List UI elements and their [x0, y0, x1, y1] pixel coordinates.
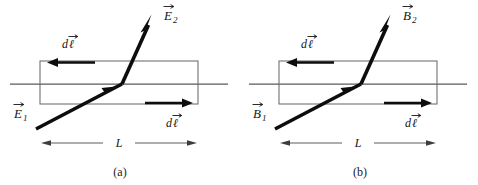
- dl-bottom-differential-symbol: d: [405, 116, 412, 130]
- panel-a-caption: (a): [113, 165, 126, 179]
- panel-a-incident-field-label: E 1: [13, 103, 28, 123]
- dl-bottom-differential-symbol: d: [166, 116, 173, 130]
- panel-b-geometry: [249, 15, 467, 146]
- incident-field-symbol: B: [253, 106, 261, 121]
- panel-b-length-label: L: [354, 136, 362, 150]
- transmitted-field-subscript: 2: [412, 15, 417, 25]
- dl-top-script-ell: ℓ: [308, 37, 313, 51]
- panel-b-caption: (b): [353, 165, 367, 179]
- transmitted-field-subscript: 2: [173, 15, 178, 25]
- panel-b-dl-bottom-label: d ℓ: [405, 114, 421, 130]
- dl-bottom-script-ell: ℓ: [412, 116, 417, 130]
- dl-top-script-ell: ℓ: [69, 37, 74, 51]
- panel-a-length-label: L: [115, 136, 123, 150]
- panel-a-dl-top-label: d ℓ: [62, 35, 78, 51]
- figure-container: E 1 E 2 d ℓ d ℓ L: [0, 0, 478, 185]
- panel-b-transmitted-field-label: B 2: [403, 5, 418, 25]
- incident-field-subscript: 1: [262, 113, 267, 123]
- panel-b: B 1 B 2 d ℓ d ℓ L: [249, 5, 467, 179]
- dl-top-differential-symbol: d: [62, 37, 69, 51]
- panel-b-dl-top-label: d ℓ: [301, 35, 317, 51]
- panel-a-dl-bottom-label: d ℓ: [166, 114, 182, 130]
- panel-a-transmitted-field-label: E 2: [163, 5, 178, 25]
- panel-a: E 1 E 2 d ℓ d ℓ L: [10, 5, 228, 179]
- dl-top-differential-symbol: d: [301, 37, 308, 51]
- physics-diagram-svg: E 1 E 2 d ℓ d ℓ L: [0, 0, 478, 185]
- transmitted-field-symbol: E: [163, 8, 172, 23]
- panel-b-incident-field-label: B 1: [253, 103, 267, 123]
- panel-a-geometry: [10, 15, 228, 146]
- dl-bottom-script-ell: ℓ: [173, 116, 178, 130]
- incident-field-subscript: 1: [23, 113, 28, 123]
- incident-field-symbol: E: [13, 106, 22, 121]
- transmitted-field-symbol: B: [403, 8, 411, 23]
